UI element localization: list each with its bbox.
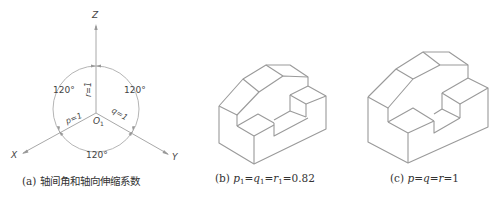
coef-p: p=1 (63, 111, 83, 126)
angle-label-bottom: 120° (86, 150, 108, 160)
formula-value: =1 (444, 172, 459, 184)
formula-q: q (253, 172, 260, 184)
caption-b: (b) p1=q1=r1=0.82 (215, 172, 315, 186)
formula-value: =0.82 (283, 172, 315, 184)
caption-b-prefix: (b) (215, 172, 233, 184)
caption-a: (a) 轴间角和轴向伸缩系数 (22, 173, 140, 188)
arc-arrow-icon (96, 65, 101, 68)
origin-subscript: 1 (100, 120, 104, 127)
coef-q: q=1 (110, 106, 129, 122)
axis-diagram (22, 24, 169, 155)
caption-c-prefix: (c) (390, 172, 407, 184)
z-label: Z (91, 10, 99, 20)
solid-c (368, 52, 488, 163)
caption-c: (c) p=q=r=1 (390, 172, 459, 184)
solid-b (219, 65, 326, 164)
coef-r: r=1 (84, 82, 93, 97)
y-label: Y (172, 152, 179, 162)
axis-labels: Z X Y O 1 120° 120° 120° r=1 p=1 q=1 (10, 10, 179, 162)
formula-eq: = (414, 172, 423, 184)
x-axis (23, 113, 96, 153)
figure-canvas: Z X Y O 1 120° 120° 120° r=1 p=1 q=1 (0, 0, 495, 197)
x-label: X (10, 150, 18, 160)
arc-arrow-icon (91, 65, 96, 68)
formula-p: p (233, 172, 240, 184)
y-arrow-icon (163, 150, 170, 155)
z-arrow-icon (94, 24, 97, 30)
formula-eq: = (430, 172, 439, 184)
formula-eq: = (264, 172, 273, 184)
formula-eq: = (244, 172, 253, 184)
angle-label-left: 120° (53, 85, 75, 95)
angle-label-right: 120° (124, 85, 146, 95)
formula-q: q (423, 172, 430, 184)
